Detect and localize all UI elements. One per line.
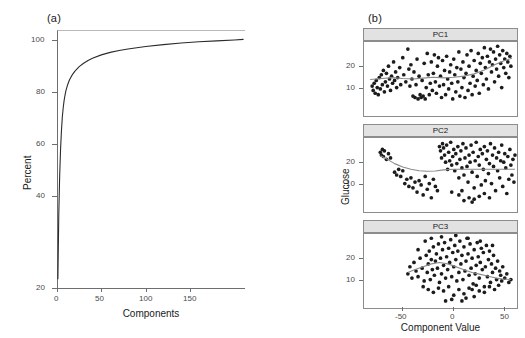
subpanel-pc2 xyxy=(363,137,518,213)
panel-a: (a) 100 80 60 40 20 0 50 100 150 Compone… xyxy=(0,0,268,338)
panel-b-xtick-mark xyxy=(402,307,403,311)
panel-a-xtick-label: 0 xyxy=(54,294,58,303)
panel-a-xtick-mark xyxy=(57,288,58,292)
panel-b-xtick-label: 0 xyxy=(450,312,454,321)
panel-a-ytick-label: 40 xyxy=(36,191,45,200)
panel-b-x-axis-title: Component Value xyxy=(363,322,518,333)
panel-b-xtick-label: -50 xyxy=(395,312,407,321)
panel-a-ytick-label: 100 xyxy=(31,35,44,44)
subpanel-pc3-plot xyxy=(364,234,517,308)
panel-a-x-axis-line xyxy=(57,288,245,289)
strip-label-pc3: PC3 xyxy=(363,220,518,233)
subpanel-pc1-plot xyxy=(364,42,517,116)
panel-b-ytick-mark xyxy=(359,88,363,89)
panel-b-xtick-mark xyxy=(504,307,505,311)
panel-b-ytick-label: 20 xyxy=(346,157,355,166)
panel-b-ytick-label: 10 xyxy=(346,83,355,92)
strip-label-pc1: PC1 xyxy=(363,28,518,41)
panel-a-ytick-label: 60 xyxy=(36,139,45,148)
panel-b-ytick-mark xyxy=(359,280,363,281)
panel-a-xtick-mark xyxy=(146,288,147,292)
panel-a-xtick-label: 50 xyxy=(95,294,104,303)
panel-b-xtick-mark xyxy=(453,307,454,311)
panel-b-ytick-label: 20 xyxy=(346,61,355,70)
figure-root: (a) 100 80 60 40 20 0 50 100 150 Compone… xyxy=(0,0,525,338)
panel-a-ytick-label: 80 xyxy=(36,87,45,96)
panel-b: (b) PC1 20 10 PC2 20 10 PC3 xyxy=(268,0,525,338)
panel-b-ytick-label: 20 xyxy=(346,253,355,262)
panel-b-y-axis-title: Glucose xyxy=(340,168,351,205)
panel-a-xtick-label: 150 xyxy=(183,294,196,303)
panel-b-ytick-label: 10 xyxy=(346,275,355,284)
panel-a-xtick-label: 100 xyxy=(139,294,152,303)
subpanel-pc1 xyxy=(363,41,518,117)
panel-b-ytick-mark xyxy=(359,258,363,259)
panel-b-ytick-mark xyxy=(359,184,363,185)
subpanel-pc3 xyxy=(363,233,518,309)
panel-a-x-axis-title: Components xyxy=(57,308,245,319)
subpanel-pc2-plot xyxy=(364,138,517,212)
panel-a-y-axis-title: Percent xyxy=(22,156,33,190)
panel-a-curve xyxy=(57,30,245,288)
panel-a-xtick-mark xyxy=(101,288,102,292)
panel-a-xtick-mark xyxy=(190,288,191,292)
panel-a-tag: (a) xyxy=(47,12,61,24)
panel-b-ytick-mark xyxy=(359,162,363,163)
panel-b-ytick-mark xyxy=(359,66,363,67)
panel-a-ytick-label: 20 xyxy=(36,283,45,292)
panel-b-xtick-label: 50 xyxy=(500,312,509,321)
strip-label-pc2: PC2 xyxy=(363,124,518,137)
panel-b-tag: (b) xyxy=(368,12,382,24)
